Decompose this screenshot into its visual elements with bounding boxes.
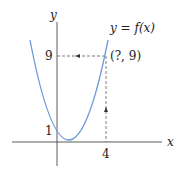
y-tick-9: 9 [45,49,53,63]
x-axis-label: x [167,135,174,149]
left-arrow-icon [75,54,80,58]
function-graph: x y 9 1 4 (?, 9) y = f(x) [0,0,187,175]
y-axis-label: y [49,8,57,22]
up-arrow-icon [104,107,108,112]
y-tick-1: 1 [45,124,53,138]
parabola-curve [30,40,108,140]
curve-label: y = f(x) [109,21,155,35]
x-tick-4: 4 [102,147,110,161]
point-label: (?, 9) [110,49,141,63]
